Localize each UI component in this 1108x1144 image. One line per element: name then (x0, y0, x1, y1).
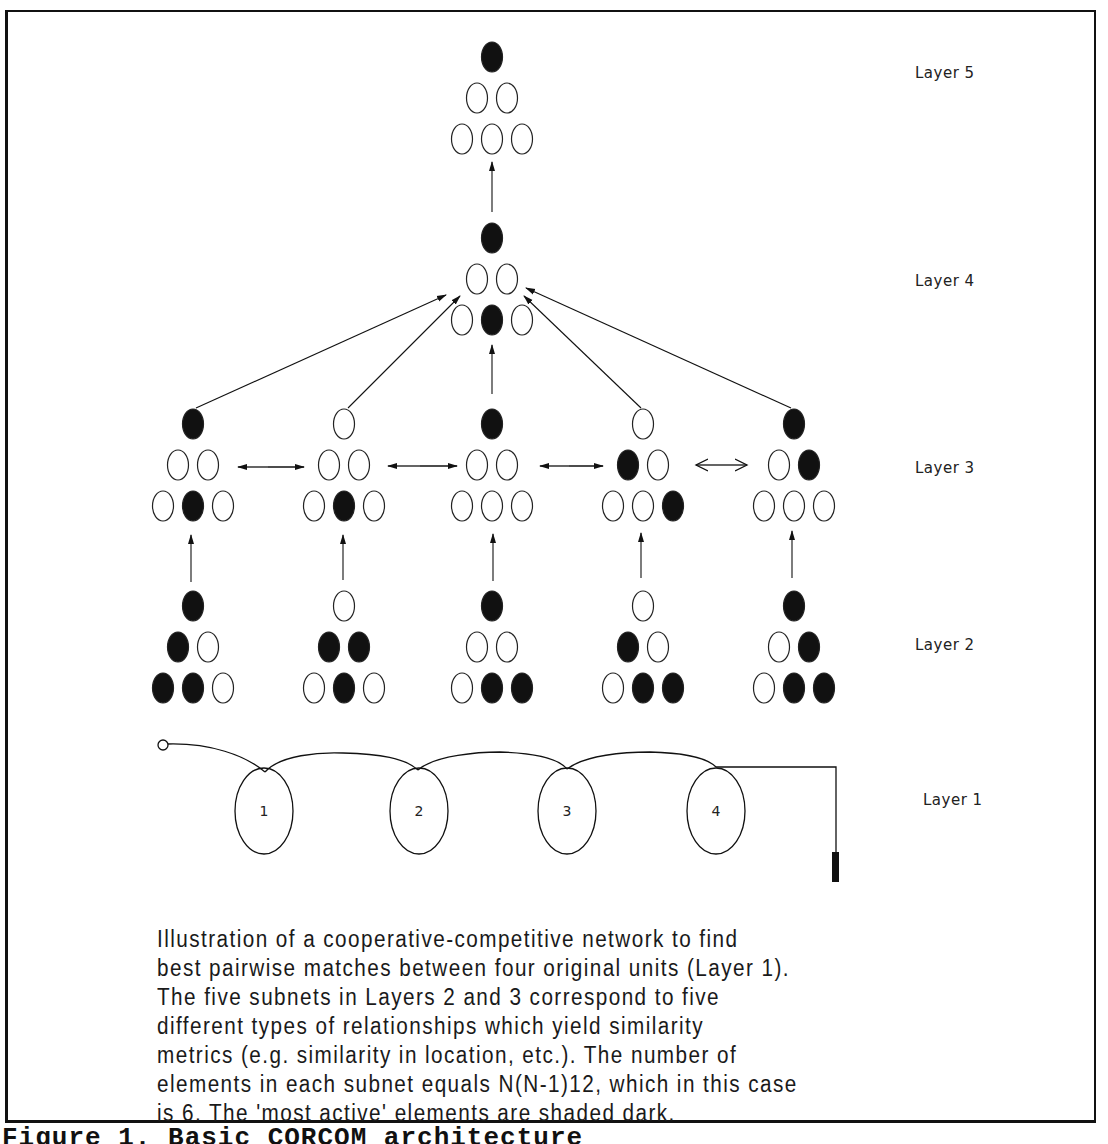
layer3-subnet-5 (754, 409, 835, 521)
inactive-element (467, 632, 488, 662)
active-element (663, 491, 684, 521)
inactive-element (467, 264, 488, 294)
active-element (482, 42, 503, 72)
inactive-element (304, 491, 325, 521)
inactive-element (497, 632, 518, 662)
inactive-element (364, 673, 385, 703)
inactive-element (467, 450, 488, 480)
inactive-element (512, 124, 533, 154)
active-element (663, 673, 684, 703)
inactive-element (482, 491, 503, 521)
inactive-element (512, 491, 533, 521)
inactive-element (452, 673, 473, 703)
inactive-element (213, 673, 234, 703)
inactive-element (603, 673, 624, 703)
inactive-element (364, 491, 385, 521)
figure-caption: Illustration of a cooperative-competitiv… (157, 925, 949, 1128)
layer2-subnet-3 (452, 591, 533, 703)
inactive-element (754, 491, 775, 521)
inactive-element (334, 591, 355, 621)
arrows-l2-to-l3 (191, 531, 792, 582)
active-element (183, 491, 204, 521)
layer5-net (452, 42, 533, 154)
layer3-subnet-3 (452, 409, 533, 521)
inactive-element (814, 491, 835, 521)
layer1-unit-label: 4 (712, 803, 721, 819)
figure-title: Figure 1. Basic CORCOM architecture (2, 1125, 583, 1144)
active-element (153, 673, 174, 703)
layer1-units: 1234 (235, 768, 745, 854)
inactive-element (754, 673, 775, 703)
layer2-subnet-2 (304, 591, 385, 703)
inactive-element (319, 450, 340, 480)
inactive-element (198, 450, 219, 480)
active-element (799, 450, 820, 480)
inactive-element (213, 491, 234, 521)
inactive-element (452, 124, 473, 154)
inactive-element (603, 491, 624, 521)
inactive-element (452, 305, 473, 335)
inactive-element (349, 450, 370, 480)
subnet-groups (153, 42, 835, 703)
inactive-element (334, 409, 355, 439)
chain-start-node (158, 740, 168, 750)
active-element (618, 450, 639, 480)
inactive-element (633, 591, 654, 621)
active-element (799, 632, 820, 662)
layer-3-label: Layer 3 (915, 459, 975, 477)
inactive-element (168, 450, 189, 480)
active-element (482, 305, 503, 335)
layer1-unit-label: 2 (415, 803, 424, 819)
inactive-element (633, 491, 654, 521)
inactive-element (512, 305, 533, 335)
active-element (183, 591, 204, 621)
inactive-element (497, 83, 518, 113)
layer-2-label: Layer 2 (915, 636, 975, 654)
layer3-subnet-1 (153, 409, 234, 521)
active-element (482, 673, 503, 703)
active-element (814, 673, 835, 703)
active-element (618, 632, 639, 662)
inactive-element (497, 264, 518, 294)
inactive-element (452, 491, 473, 521)
inactive-element (153, 491, 174, 521)
active-element (784, 673, 805, 703)
layer4-net (452, 223, 533, 335)
inactive-element (497, 450, 518, 480)
layer3-subnet-2 (304, 409, 385, 521)
active-element (183, 409, 204, 439)
inactive-element (304, 673, 325, 703)
chain-end-terminal (832, 852, 839, 882)
layer2-subnet-4 (603, 591, 684, 703)
active-element (482, 409, 503, 439)
layer3-subnet-4 (603, 409, 684, 521)
inactive-element (633, 409, 654, 439)
inactive-element (198, 632, 219, 662)
active-element (168, 632, 189, 662)
inactive-element (648, 450, 669, 480)
active-element (633, 673, 654, 703)
inactive-element (648, 632, 669, 662)
inactive-element (467, 83, 488, 113)
active-element (319, 632, 340, 662)
layer-5-label: Layer 5 (915, 64, 975, 82)
layer1-unit-label: 3 (563, 803, 572, 819)
inactive-element (769, 632, 790, 662)
active-element (183, 673, 204, 703)
inactive-element (482, 124, 503, 154)
active-element (482, 223, 503, 253)
layer2-subnet-5 (754, 591, 835, 703)
active-element (512, 673, 533, 703)
layer-4-label: Layer 4 (915, 272, 975, 290)
active-element (784, 409, 805, 439)
active-element (482, 591, 503, 621)
active-element (334, 673, 355, 703)
active-element (784, 591, 805, 621)
active-element (334, 491, 355, 521)
layer-1-label: Layer 1 (923, 791, 983, 809)
inactive-element (784, 491, 805, 521)
active-element (349, 632, 370, 662)
inactive-element (769, 450, 790, 480)
layer1-unit-label: 1 (260, 803, 269, 819)
layer2-subnet-1 (153, 591, 234, 703)
